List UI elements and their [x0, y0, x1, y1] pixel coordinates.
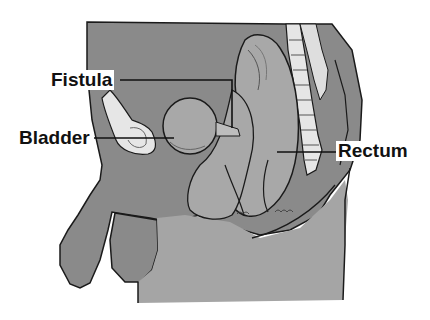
bladder-label: Bladder: [17, 128, 92, 148]
bladder-organ: [163, 98, 217, 154]
rectum-label: Rectum: [336, 141, 410, 161]
fistula-label: Fistula: [49, 70, 114, 90]
